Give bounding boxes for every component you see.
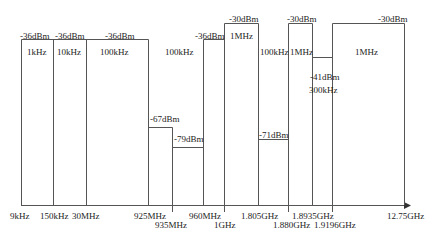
level-label: -36dBm bbox=[20, 31, 50, 41]
level-label: -71dBm bbox=[259, 130, 289, 140]
level-label: -41dBm bbox=[310, 72, 340, 82]
rbw-label: 1MHz bbox=[230, 31, 253, 41]
rbw-label: 10kHz bbox=[57, 47, 81, 57]
tick-label: 1.880GHz bbox=[273, 220, 310, 230]
level-label: -30dBm bbox=[287, 14, 317, 24]
rbw-label: 100kHz bbox=[100, 47, 129, 57]
tick-label: 150kHz bbox=[40, 211, 69, 221]
rbw-label: 1MHz bbox=[290, 47, 313, 57]
level-label: -79dBm bbox=[174, 134, 204, 144]
tick-label: 30MHz bbox=[72, 211, 100, 221]
axis-arrow-icon bbox=[404, 202, 411, 209]
tick-label: 9kHz bbox=[10, 211, 30, 221]
tick-label: 1GHz bbox=[214, 220, 236, 230]
level-label: -30dBm bbox=[378, 14, 408, 24]
level-label: -30dBm bbox=[229, 14, 259, 24]
level-label: -67dBm bbox=[150, 114, 180, 124]
level-label: -36dBm bbox=[105, 31, 135, 41]
rbw-label: 100kHz bbox=[260, 47, 289, 57]
rbw-label: 300kHz bbox=[309, 85, 338, 95]
rbw-label: 100kHz bbox=[165, 47, 194, 57]
rbw-label: 1kHz bbox=[27, 47, 47, 57]
tick-label: 1.9196GHz bbox=[314, 220, 356, 230]
level-label: -36dBm bbox=[55, 31, 85, 41]
level-label: -36dBm bbox=[195, 31, 225, 41]
rbw-label: 1MHz bbox=[355, 47, 378, 57]
tick-label: 935MHz bbox=[155, 220, 187, 230]
tick-label: 12.75GHz bbox=[387, 211, 424, 221]
